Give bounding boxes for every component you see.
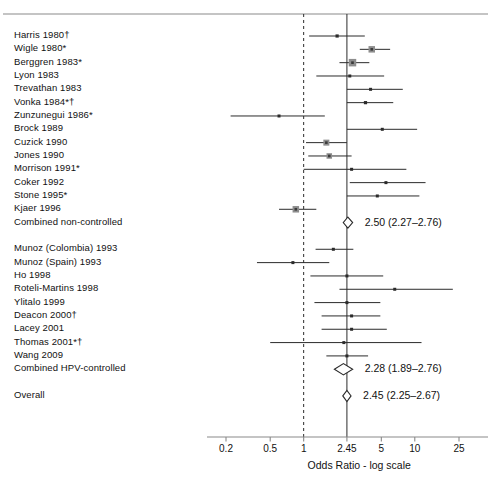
study-label: Stone 1995* xyxy=(14,190,67,200)
study-label: Lacey 2001 xyxy=(14,323,64,333)
study-label: Munoz (Spain) 1993 xyxy=(14,257,101,267)
study-label: Munoz (Colombia) 1993 xyxy=(14,243,117,253)
study-label: Zunzunegui 1986* xyxy=(14,110,93,120)
study-label: Coker 1992 xyxy=(14,177,64,187)
study-effect-box xyxy=(345,354,348,357)
x-axis-tick-label: 25 xyxy=(453,443,464,454)
study-effect-box xyxy=(291,261,294,264)
study-effect-box xyxy=(369,88,372,91)
study-effect-point xyxy=(325,141,328,144)
study-effect-box xyxy=(376,194,379,197)
x-axis-tick-label: 10 xyxy=(409,443,420,454)
study-effect-point xyxy=(370,48,373,51)
study-label: Ylitalo 1999 xyxy=(14,297,65,307)
x-axis-tick-label: 0.5 xyxy=(263,443,277,454)
study-label: Cuzick 1990 xyxy=(14,137,67,147)
study-effect-box xyxy=(345,301,348,304)
study-effect-box xyxy=(345,274,348,277)
study-effect-point xyxy=(351,61,354,64)
study-effect-box xyxy=(393,288,396,291)
study-effect-box xyxy=(384,181,387,184)
study-label: Wigle 1980* xyxy=(14,43,66,53)
study-label: Jones 1990 xyxy=(14,150,64,160)
study-effect-box xyxy=(350,168,353,171)
x-axis-title: Odds Ratio - log scale xyxy=(308,459,411,471)
study-label: Wang 2009 xyxy=(14,350,63,360)
x-axis-tick-label: 5 xyxy=(379,443,385,454)
x-axis-tick-label: 0.2 xyxy=(219,443,233,454)
study-label: Lyon 1983 xyxy=(14,70,59,80)
summary-label: Combined HPV-controlled xyxy=(14,363,126,373)
x-axis-tick-label: 1 xyxy=(301,443,307,454)
study-effect-box xyxy=(332,248,335,251)
x-axis-tick-label: 2.45 xyxy=(337,443,356,454)
summary-diamond xyxy=(343,390,351,401)
study-effect-box xyxy=(364,101,367,104)
study-effect-box xyxy=(381,128,384,131)
study-label: Ho 1998 xyxy=(14,270,51,280)
study-label: Harris 1980† xyxy=(14,30,70,40)
study-label: Deacon 2000† xyxy=(14,310,77,320)
study-effect-box xyxy=(278,114,281,117)
summary-estimate-text: 2.28 (1.89–2.76) xyxy=(365,362,442,374)
study-label: Morrison 1991* xyxy=(14,163,80,173)
study-effect-box xyxy=(350,314,353,317)
study-label: Thomas 2001*† xyxy=(14,337,82,347)
study-effect-point xyxy=(328,155,331,158)
summary-estimate-text: 2.50 (2.27–2.76) xyxy=(365,216,442,228)
summary-diamond xyxy=(334,364,352,375)
study-label: Trevathan 1983 xyxy=(14,83,82,93)
summary-label: Overall xyxy=(14,390,45,400)
study-effect-point xyxy=(295,208,298,211)
study-effect-box xyxy=(348,74,351,77)
study-label: Berggren 1983* xyxy=(14,57,82,67)
summary-estimate-text: 2.45 (2.25–2.67) xyxy=(363,389,440,401)
forest-plot: Harris 1980†Wigle 1980*Berggren 1983*Lyo… xyxy=(0,0,491,485)
study-effect-box xyxy=(342,341,345,344)
study-label: Vonka 1984*† xyxy=(14,97,74,107)
study-label: Kjaer 1996 xyxy=(14,203,61,213)
study-effect-box xyxy=(336,34,339,37)
study-effect-box xyxy=(350,328,353,331)
study-label: Brock 1989 xyxy=(14,123,63,133)
summary-diamond xyxy=(343,217,352,228)
summary-label: Combined non-controlled xyxy=(14,217,122,227)
study-label: Roteli-Martins 1998 xyxy=(14,283,98,293)
